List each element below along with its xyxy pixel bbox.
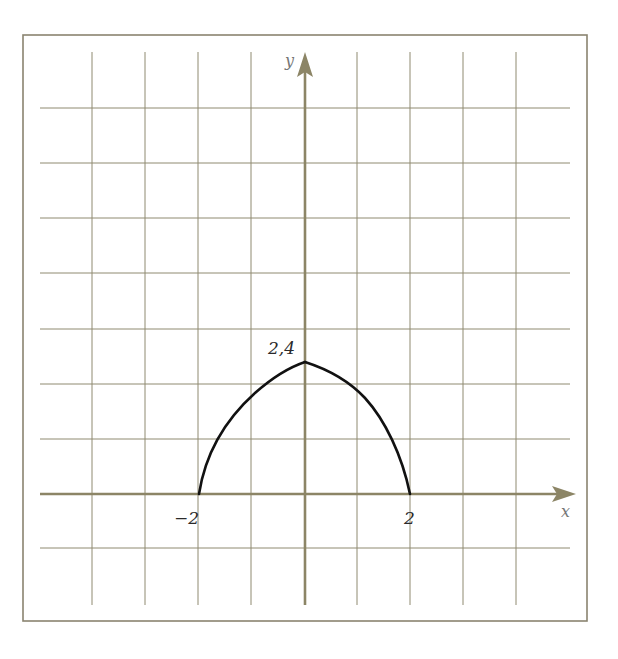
peak-label: 2,4 [267, 338, 295, 358]
tick-label-neg-two: −2 [174, 508, 199, 528]
y-axis-label: y [284, 51, 295, 70]
chart: 2,4 −2 2 x y [0, 0, 618, 659]
x-axis [40, 486, 576, 502]
x-axis-label: x [561, 502, 570, 521]
curve-left-arc [199, 362, 305, 494]
tick-label-two: 2 [403, 508, 415, 528]
